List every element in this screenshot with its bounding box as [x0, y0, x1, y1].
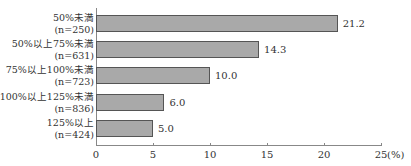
category-label: 100%以上125%未満: [0, 91, 94, 103]
value-label: 5.0: [158, 123, 174, 135]
category-n-label: (n=723): [54, 76, 94, 88]
value-label: 6.0: [169, 97, 185, 109]
x-tick-label: 0: [93, 149, 99, 161]
category-label: 75%以上100%未満: [6, 64, 94, 76]
category-label: 125%以上: [47, 117, 94, 129]
x-tick-label: 25: [375, 149, 388, 161]
category-n-label: (n=631): [54, 50, 94, 62]
x-tick-label: 10: [204, 149, 217, 161]
value-label: 14.3: [264, 44, 286, 56]
value-label: 10.0: [215, 70, 237, 82]
category-label: 50%以上75%未満: [12, 38, 94, 50]
x-axis-unit-label: (%): [387, 149, 404, 161]
x-tick: [381, 143, 382, 146]
category-n-label: (n=424): [54, 129, 94, 141]
bar: [96, 94, 164, 111]
category-label: 50%未満: [53, 12, 94, 24]
bar: [96, 120, 153, 137]
x-tick: [324, 143, 325, 146]
x-tick: [153, 143, 154, 146]
x-axis-line: [96, 145, 382, 146]
category-n-label: (n=250): [54, 24, 94, 36]
category-n-label: (n=836): [54, 103, 94, 115]
x-tick: [267, 143, 268, 146]
value-label: 21.2: [343, 18, 365, 30]
x-tick: [210, 143, 211, 146]
bar: [96, 15, 338, 32]
bar: [96, 67, 210, 84]
x-tick: [96, 143, 97, 146]
x-tick-label: 15: [261, 149, 274, 161]
x-tick-label: 20: [318, 149, 331, 161]
x-tick-label: 5: [150, 149, 156, 161]
bar: [96, 41, 259, 58]
